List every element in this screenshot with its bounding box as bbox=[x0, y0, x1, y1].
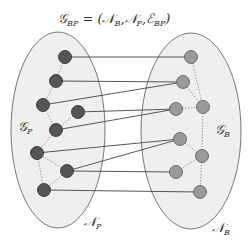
node-b bbox=[194, 186, 207, 199]
node-b bbox=[170, 166, 183, 179]
node-p bbox=[72, 106, 85, 119]
node-p bbox=[61, 165, 74, 178]
node-p bbox=[50, 124, 63, 137]
node-p bbox=[59, 51, 72, 64]
node-b bbox=[174, 133, 187, 146]
node-b bbox=[185, 51, 198, 64]
label-np: 𝒩P bbox=[84, 214, 102, 231]
label-nb: 𝒩B bbox=[212, 220, 230, 237]
node-p bbox=[37, 99, 50, 112]
node-p bbox=[31, 147, 44, 160]
node-b bbox=[170, 103, 183, 116]
bipartite-graph-diagram: 𝒢BP = (𝒩B,𝒩P,ℰBP) 𝒢P 𝒢B 𝒩P 𝒩B bbox=[0, 0, 252, 240]
node-p bbox=[38, 184, 51, 197]
node-b bbox=[197, 101, 210, 114]
node-p bbox=[50, 75, 63, 88]
node-b bbox=[196, 150, 209, 163]
node-b bbox=[177, 76, 190, 89]
graph-title: 𝒢BP = (𝒩B,𝒩P,ℰBP) bbox=[58, 11, 170, 28]
